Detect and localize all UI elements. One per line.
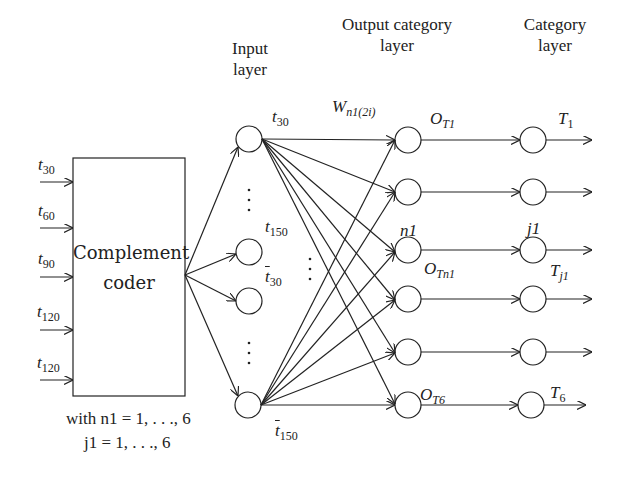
weight-label: Wn1(2i) bbox=[332, 98, 376, 115]
header-line: Output category bbox=[322, 14, 472, 35]
label-base: W bbox=[332, 97, 346, 116]
label-sub: 60 bbox=[43, 209, 55, 223]
label-sub: 150 bbox=[280, 429, 298, 443]
header-line: Category bbox=[510, 14, 600, 35]
category-label-bottom: T6 bbox=[550, 384, 565, 401]
label-base: O bbox=[420, 385, 432, 404]
label-sub: Tn1 bbox=[436, 267, 455, 281]
coder-input-label: t30 bbox=[38, 156, 55, 173]
label-sub: T6 bbox=[432, 393, 445, 407]
label-sub: 150 bbox=[270, 225, 288, 239]
category-layer-header: Category layer bbox=[510, 14, 600, 56]
input-node-label-complement: t150 bbox=[275, 422, 298, 439]
header-line: layer bbox=[510, 35, 600, 56]
category-label-middle: Tj1 bbox=[550, 262, 569, 279]
label-sub: 90 bbox=[43, 257, 55, 271]
input-layer-header: Input layer bbox=[222, 38, 278, 80]
label-sub: T1 bbox=[442, 117, 455, 131]
label-sub: 120 bbox=[42, 361, 60, 375]
category-index-label: j1 bbox=[527, 220, 540, 237]
label-sub: j1 bbox=[559, 269, 568, 283]
header-line: Input bbox=[222, 38, 278, 59]
input-node-label: t150 bbox=[265, 218, 288, 235]
label-sub: 120 bbox=[42, 310, 60, 324]
coder-input-label: t60 bbox=[38, 202, 55, 219]
input-node-label-complement: t30 bbox=[265, 268, 282, 285]
coder-input-label: t120 bbox=[37, 354, 60, 371]
coder-input-label: t90 bbox=[38, 250, 55, 267]
output-index-label: n1 bbox=[400, 222, 417, 239]
label-base: O bbox=[424, 259, 436, 278]
note-n1-range: with n1 = 1, . . ., 6 bbox=[66, 410, 191, 427]
output-label-bottom: OT6 bbox=[420, 386, 445, 403]
coder-input-label: t120 bbox=[37, 303, 60, 320]
output-label-middle: OTn1 bbox=[424, 260, 455, 277]
coder-label-line: coder bbox=[73, 268, 185, 298]
header-line: layer bbox=[222, 59, 278, 80]
note-j1-range: j1 = 1, . . ., 6 bbox=[84, 434, 171, 451]
output-label-top: OT1 bbox=[430, 110, 455, 127]
label-base: O bbox=[430, 109, 442, 128]
label-sub: 30 bbox=[43, 163, 55, 177]
header-line: layer bbox=[322, 35, 472, 56]
category-label-top: T1 bbox=[558, 110, 573, 127]
label-sub: 6 bbox=[559, 391, 565, 405]
coder-label-line: Complement bbox=[73, 238, 185, 268]
label-sub: 1 bbox=[567, 117, 573, 131]
output-category-layer-header: Output category layer bbox=[322, 14, 472, 56]
complement-coder-label: Complement coder bbox=[73, 238, 185, 298]
label-sub: 30 bbox=[277, 115, 289, 129]
input-node-label: t30 bbox=[272, 108, 289, 125]
label-sub: n1(2i) bbox=[346, 105, 375, 119]
label-sub: 30 bbox=[270, 275, 282, 289]
